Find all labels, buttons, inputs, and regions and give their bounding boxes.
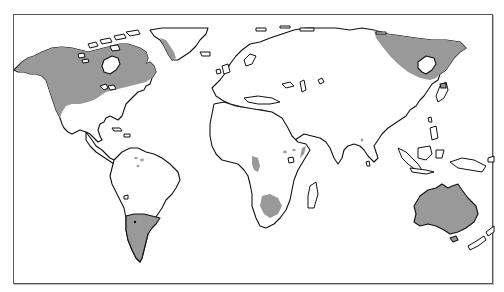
australia xyxy=(414,184,494,250)
north-america xyxy=(14,30,156,164)
south-america xyxy=(110,148,180,262)
world-map xyxy=(0,0,504,292)
greenland xyxy=(150,28,210,60)
